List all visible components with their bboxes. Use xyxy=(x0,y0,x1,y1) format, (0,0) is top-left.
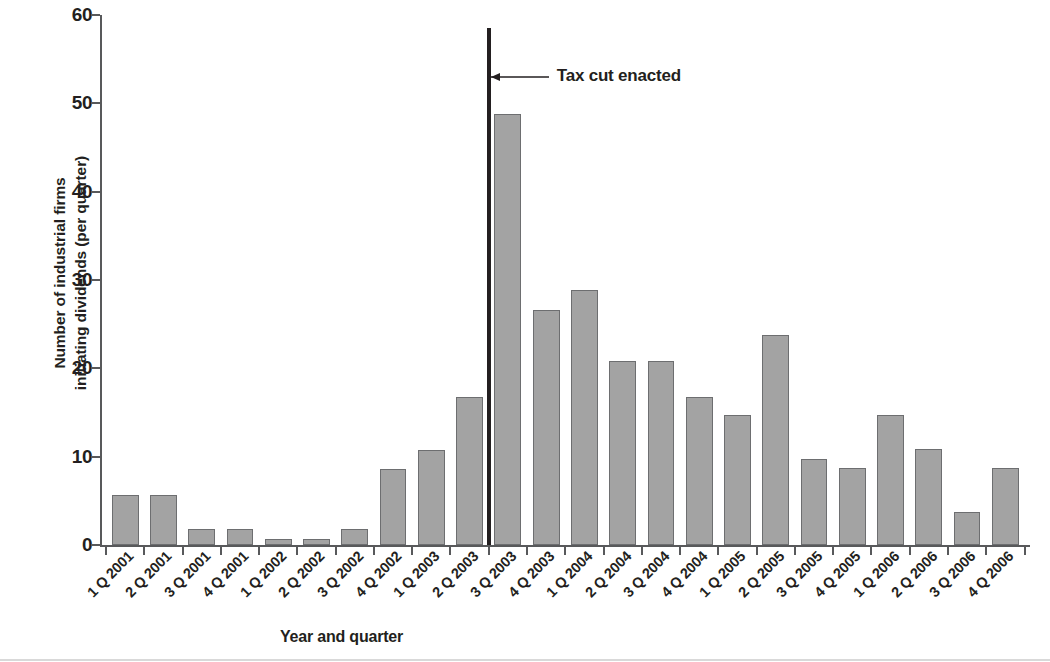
bar xyxy=(762,335,789,545)
y-axis-tick-label: 0 xyxy=(46,534,92,556)
bar xyxy=(915,449,942,545)
bar xyxy=(188,529,215,545)
bar xyxy=(992,468,1019,545)
y-axis-tick-mark xyxy=(91,544,100,546)
bar xyxy=(380,469,407,545)
bar xyxy=(571,290,598,545)
bar xyxy=(533,310,560,545)
bottom-rule xyxy=(0,659,1050,661)
y-axis-tick-mark xyxy=(91,279,100,281)
y-axis-tick-label: 40 xyxy=(46,181,92,203)
x-axis-tick-labels: 1 Q 20012 Q 20013 Q 20014 Q 20011 Q 2002… xyxy=(100,548,1030,628)
bar xyxy=(686,397,713,545)
tax-cut-annotation-label: Tax cut enacted xyxy=(557,66,681,86)
bar xyxy=(227,529,254,545)
bar xyxy=(456,397,483,545)
plot-area: Tax cut enacted xyxy=(100,15,1030,545)
y-axis-tick-mark xyxy=(91,456,100,458)
y-axis-tick-labels: 0102030405060 xyxy=(46,0,92,662)
bar xyxy=(954,512,981,545)
tax-cut-event-line xyxy=(487,28,491,545)
bar xyxy=(150,495,177,545)
bar xyxy=(648,361,675,545)
bar xyxy=(341,529,368,545)
y-axis-tick-label: 10 xyxy=(46,446,92,468)
y-axis-tick-mark xyxy=(91,367,100,369)
bar xyxy=(724,415,751,545)
bar xyxy=(112,495,139,545)
chart-figure: Number of industrial firms initiating di… xyxy=(0,0,1050,662)
y-axis-tick-label: 30 xyxy=(46,269,92,291)
bar xyxy=(303,539,330,545)
y-axis-line xyxy=(100,15,102,546)
y-axis-tick-mark xyxy=(91,14,100,16)
y-axis-tick-label: 60 xyxy=(46,4,92,26)
bar xyxy=(494,114,521,545)
bar xyxy=(265,539,292,545)
y-axis-tick-label: 50 xyxy=(46,92,92,114)
y-axis-tick-mark xyxy=(91,102,100,104)
y-axis-tick-mark xyxy=(91,191,100,193)
bar xyxy=(801,459,828,545)
bar xyxy=(609,361,636,545)
bar xyxy=(877,415,904,545)
bar xyxy=(839,468,866,545)
x-axis-title: Year and quarter xyxy=(280,628,403,646)
annotation-arrow-icon xyxy=(491,70,549,84)
bar xyxy=(418,450,445,545)
y-axis-tick-label: 20 xyxy=(46,357,92,379)
